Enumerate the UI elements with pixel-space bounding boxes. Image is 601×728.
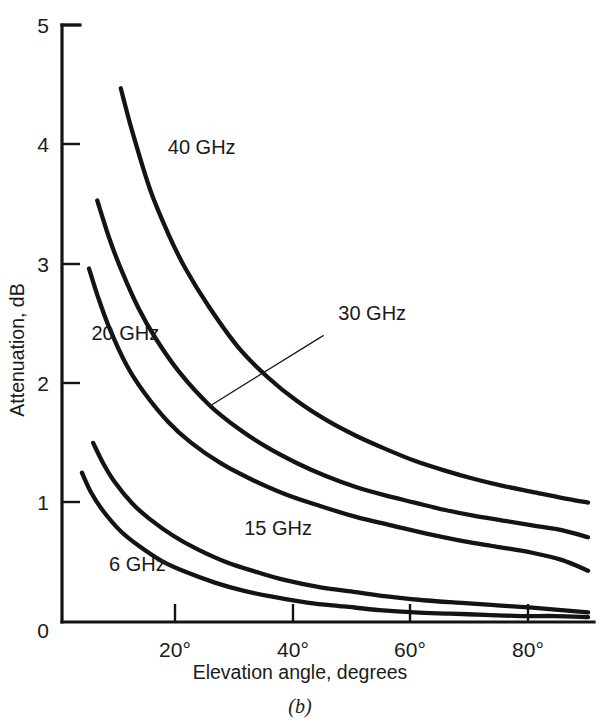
figure-caption: (b) (288, 695, 312, 718)
x-axis-tick-labels: 20° 40° 60° 80° (159, 638, 544, 661)
y-tick-label-5: 5 (37, 14, 49, 37)
series-label-20-ghz: 20 GHz (91, 322, 159, 344)
data-curves (82, 88, 588, 617)
series-label-6-ghz: 6 GHz (109, 553, 166, 575)
y-tick-label-4: 4 (37, 133, 49, 156)
curve-15-ghz (93, 443, 588, 613)
x-tick-label-40: 40° (277, 638, 309, 661)
y-axis-tick-labels: 5 4 3 2 1 0 (37, 14, 49, 642)
curve-6-ghz (82, 473, 588, 617)
series-label-15-ghz: 15 GHz (244, 517, 312, 539)
y-tick-label-1: 1 (37, 491, 49, 514)
x-tick-label-80: 80° (512, 638, 544, 661)
series-label-30-ghz: 30 GHz (338, 302, 406, 324)
y-tick-label-3: 3 (37, 253, 49, 276)
attenuation-vs-elevation-chart: 5 4 3 2 1 0 20° 40° 60° 80° (0, 0, 601, 728)
y-tick-label-2: 2 (37, 372, 49, 395)
y-axis-ticks (62, 25, 80, 502)
figure-container: 5 4 3 2 1 0 20° 40° 60° 80° (0, 0, 601, 728)
x-tick-label-20: 20° (159, 638, 191, 661)
leader-line-30-ghz (212, 335, 324, 404)
x-axis-title: Elevation angle, degrees (193, 661, 408, 683)
y-tick-label-0: 0 (37, 619, 49, 642)
series-label-40-ghz: 40 GHz (168, 136, 236, 158)
x-tick-label-60: 60° (394, 638, 426, 661)
y-axis-title: Attenuation, dB (6, 283, 28, 416)
annotation-leaders (212, 335, 324, 404)
